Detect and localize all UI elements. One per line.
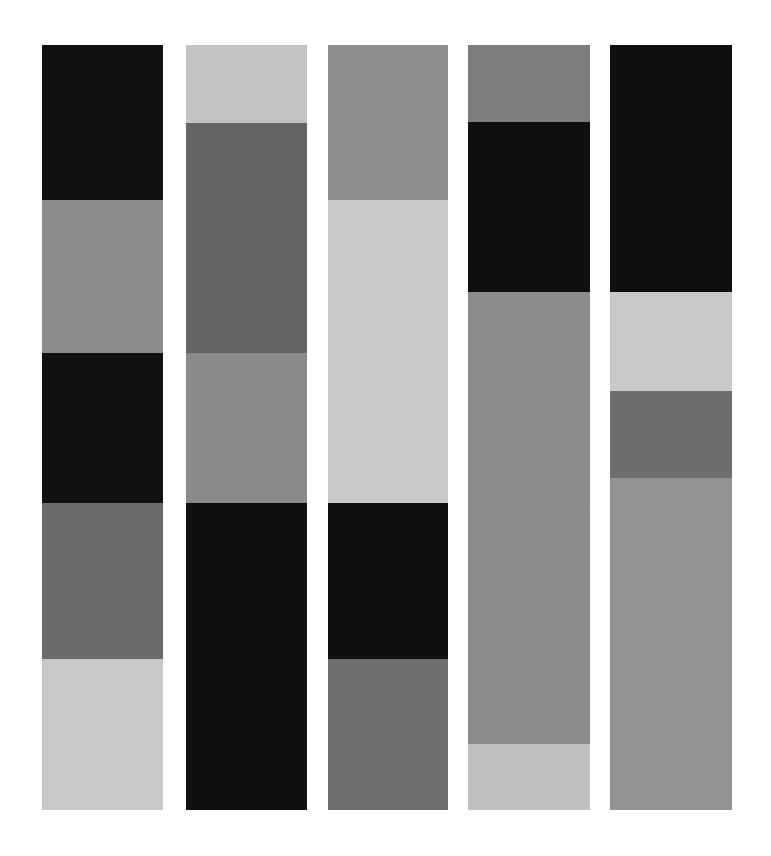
color-bar-segment [186, 123, 307, 353]
color-bar-segment [468, 744, 590, 810]
color-bar-column [42, 0, 163, 856]
color-bar-segment [610, 478, 732, 810]
color-bar-segment [610, 45, 732, 292]
color-bar-segment [328, 45, 448, 200]
color-bar-segment [42, 200, 163, 353]
color-bar-segment [42, 659, 163, 810]
color-bar-segment [610, 292, 732, 391]
color-bar-column [468, 0, 590, 856]
color-bar-column [186, 0, 307, 856]
color-bar-segment [328, 659, 448, 810]
color-bar-segment [468, 45, 590, 122]
color-bar-segment [186, 353, 307, 503]
color-bar-segment [328, 200, 448, 503]
color-bar-segment [42, 503, 163, 659]
color-bar-segment [328, 503, 448, 659]
color-bar-segment [186, 45, 307, 123]
color-bar-segment [468, 292, 590, 744]
color-bar-segment [468, 122, 590, 292]
image-canvas [0, 0, 771, 856]
color-bar-column [610, 0, 732, 856]
color-bar-segment [42, 45, 163, 200]
color-bar-segment [186, 503, 307, 810]
color-bar-segment [610, 391, 732, 478]
color-bar-column [328, 0, 448, 856]
color-bar-segment [42, 353, 163, 503]
